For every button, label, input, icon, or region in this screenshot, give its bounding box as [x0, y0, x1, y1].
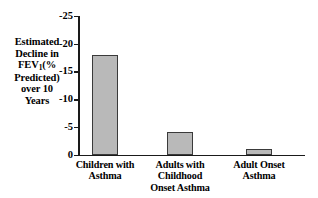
bar-chart: Estimated Decline in FEV1(% Predicted) o… — [0, 0, 318, 198]
y-tick-mark — [74, 44, 78, 45]
y-tick-mark — [74, 16, 78, 17]
bar-1 — [167, 132, 193, 154]
y-tick-mark — [74, 71, 78, 72]
y-axis-title-fev-subscript: 1 — [39, 63, 43, 72]
x-category-label-line: Onset Asthma — [134, 182, 226, 193]
x-category-label-line: Asthma — [213, 170, 305, 181]
plot-area: -25-20-15-10-50 — [78, 16, 305, 156]
y-tick-label: -10 — [59, 94, 73, 105]
y-axis-line — [78, 16, 80, 156]
y-tick-label: -15 — [59, 66, 73, 77]
y-tick-mark — [74, 99, 78, 100]
y-tick-label: -25 — [59, 11, 73, 22]
x-axis-line — [78, 155, 305, 157]
y-axis-title-percent: (% — [42, 59, 56, 70]
bar-0 — [92, 55, 118, 155]
y-axis-title-line-2: Decline in — [4, 48, 70, 60]
bar-2 — [246, 149, 272, 155]
x-category-label-2: Adult OnsetAsthma — [213, 159, 305, 182]
x-category-label-line: Adult Onset — [213, 159, 305, 170]
y-tick-mark — [74, 127, 78, 128]
y-tick-label: -5 — [64, 122, 73, 133]
y-axis-title-fev: FEV — [18, 59, 39, 70]
y-tick-mark — [74, 155, 78, 156]
y-tick-label: -20 — [59, 38, 73, 49]
